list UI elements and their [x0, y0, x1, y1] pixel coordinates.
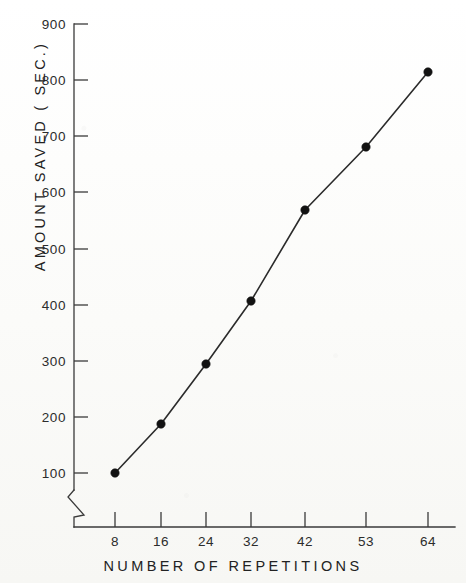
y-tick-label-100: 100 [18, 466, 66, 481]
x-tick-label-16: 16 [153, 534, 169, 549]
x-tick-label-24: 24 [198, 534, 214, 549]
data-point-32 [247, 297, 255, 305]
x-tick-label-42: 42 [297, 534, 313, 549]
y-tick-marks [74, 24, 88, 473]
y-tick-label-200: 200 [18, 410, 66, 425]
data-point-24 [202, 360, 210, 368]
y-tick-label-300: 300 [18, 354, 66, 369]
y-axis-title: AMOUNT SAVED ( SEC.) [32, 36, 48, 276]
data-point-8 [111, 469, 119, 477]
data-point-53 [362, 143, 370, 151]
plot-canvas [0, 0, 466, 583]
y-tick-label-900: 900 [18, 17, 66, 32]
x-tick-label-32: 32 [243, 534, 259, 549]
x-tick-label-64: 64 [420, 534, 436, 549]
x-tick-label-8: 8 [111, 534, 119, 549]
y-axis-break-zigzag [68, 490, 84, 527]
data-point-16 [157, 420, 165, 428]
data-point-42 [301, 206, 309, 214]
x-tick-label-53: 53 [358, 534, 374, 549]
data-series-line [115, 72, 428, 473]
chart-figure: 900 800 700 600 500 400 300 200 100 8 16… [0, 0, 466, 583]
y-tick-label-400: 400 [18, 298, 66, 313]
data-point-markers [111, 68, 432, 477]
x-tick-marks [115, 512, 428, 527]
x-axis-title: NUMBER OF REPETITIONS [0, 558, 466, 574]
data-point-64 [424, 68, 432, 76]
